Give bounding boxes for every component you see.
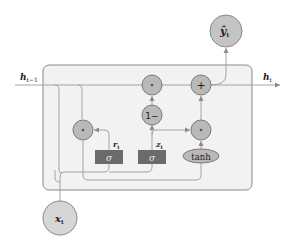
svg-text:tanh: tanh: [191, 152, 211, 162]
svg-text:+: +: [196, 79, 205, 92]
update-gate-sigma: σ: [138, 150, 166, 164]
mult-node-top: [142, 75, 162, 95]
tanh-node: tanh: [183, 149, 219, 163]
h-t-label: ht: [263, 72, 273, 83]
input-node-x-t: xt: [43, 201, 77, 235]
svg-text:σ: σ: [106, 153, 113, 163]
svg-text:σ: σ: [149, 153, 156, 163]
gru-diagram: ht−1 ht ŷt + 1− rt zt σ σ: [0, 0, 288, 247]
mult-node-reset: [73, 120, 93, 140]
add-node: +: [191, 75, 211, 95]
output-node-y-hat: ŷt: [210, 15, 242, 47]
svg-text:1−: 1−: [145, 111, 158, 121]
one-minus-node: 1−: [142, 105, 162, 125]
h-prev-label: ht−1: [20, 72, 38, 83]
reset-gate-sigma: σ: [95, 150, 123, 164]
mult-node-candidate: [191, 120, 211, 140]
